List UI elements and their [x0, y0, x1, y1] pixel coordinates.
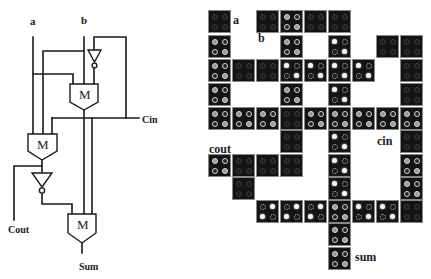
- quantum-dot-icon: [318, 204, 323, 209]
- qca-cell: [305, 60, 326, 81]
- quantum-dot-icon: [260, 24, 266, 30]
- quantum-dot-icon: [260, 158, 266, 164]
- quantum-dot-icon: [246, 73, 252, 79]
- quantum-dot-icon: [284, 144, 290, 150]
- quantum-dot-icon: [246, 181, 252, 187]
- grid-label-sum: sum: [355, 251, 376, 263]
- quantum-dot-icon: [404, 214, 410, 220]
- qca-cell: [281, 108, 302, 129]
- quantum-dot-icon: [308, 214, 313, 219]
- quantum-dot-icon: [222, 63, 228, 69]
- quantum-dot-icon: [318, 111, 324, 117]
- quantum-dot-icon: [342, 158, 348, 164]
- quantum-dot-icon: [294, 158, 300, 164]
- quantum-dot-icon: [366, 111, 372, 117]
- quantum-dot-icon: [212, 73, 218, 79]
- quantum-dot-icon: [390, 39, 396, 45]
- quantum-dot-icon: [356, 73, 362, 79]
- quantum-dot-icon: [270, 158, 276, 164]
- quantum-dot-icon: [236, 121, 242, 127]
- quantum-dot-icon: [318, 73, 323, 78]
- quantum-dot-icon: [332, 251, 338, 257]
- qca-cell: [401, 108, 422, 129]
- quantum-dot-icon: [222, 168, 228, 174]
- quantum-dot-icon: [212, 158, 218, 164]
- qca-cell: [401, 178, 422, 199]
- qca-cell: [257, 201, 278, 222]
- qca-cell: [353, 60, 374, 81]
- quantum-dot-icon: [332, 158, 337, 163]
- qca-cell: [281, 36, 302, 57]
- quantum-dot-icon: [222, 24, 228, 30]
- quantum-dot-icon: [342, 24, 348, 30]
- quantum-dot-icon: [246, 158, 252, 164]
- qca-cell: [257, 155, 278, 176]
- quantum-dot-icon: [236, 191, 242, 197]
- quantum-dot-icon: [260, 63, 266, 69]
- quantum-dot-icon: [222, 158, 228, 164]
- quantum-dot-icon: [222, 121, 228, 127]
- qca-cell: [377, 36, 398, 57]
- quantum-dot-icon: [284, 214, 289, 219]
- quantum-dot-icon: [390, 121, 396, 127]
- quantum-dot-icon: [342, 49, 347, 54]
- qca-cell: [281, 155, 302, 176]
- grid-label-cout: cout: [209, 143, 231, 155]
- quantum-dot-icon: [380, 214, 386, 220]
- qca-cell: [377, 108, 398, 129]
- qca-cell: [329, 84, 350, 105]
- quantum-dot-icon: [270, 24, 276, 30]
- quantum-dot-icon: [342, 181, 348, 187]
- quantum-dot-icon: [294, 97, 300, 103]
- quantum-dot-icon: [332, 121, 338, 127]
- quantum-dot-icon: [212, 49, 218, 55]
- quantum-dot-icon: [284, 63, 289, 68]
- quantum-dot-icon: [222, 97, 228, 103]
- quantum-dot-icon: [332, 97, 338, 103]
- quantum-dot-icon: [342, 168, 347, 173]
- qca-cell: [209, 108, 230, 129]
- quantum-dot-icon: [404, 181, 410, 187]
- quantum-dot-icon: [308, 14, 314, 20]
- qca-cell: [329, 178, 350, 199]
- quantum-dot-icon: [414, 49, 420, 55]
- qca-cell: [233, 108, 254, 129]
- quantum-dot-icon: [342, 121, 348, 127]
- quantum-dot-icon: [260, 121, 266, 127]
- qca-cell: [257, 108, 278, 129]
- qca-cell: [401, 155, 422, 176]
- quantum-dot-icon: [332, 191, 338, 197]
- quantum-dot-icon: [270, 121, 276, 127]
- quantum-dot-icon: [236, 63, 242, 69]
- qca-cell: [281, 201, 302, 222]
- qca-cell: [233, 155, 254, 176]
- qca-cell: [329, 108, 350, 129]
- qca-cell: [281, 11, 302, 32]
- quantum-dot-icon: [294, 14, 300, 20]
- quantum-dot-icon: [222, 49, 228, 55]
- quantum-dot-icon: [284, 14, 290, 20]
- quantum-dot-icon: [404, 158, 410, 164]
- quantum-dot-icon: [294, 204, 299, 209]
- quantum-dot-icon: [212, 111, 218, 117]
- quantum-dot-icon: [342, 87, 348, 93]
- quantum-dot-icon: [212, 39, 218, 45]
- quantum-dot-icon: [294, 49, 300, 55]
- quantum-dot-icon: [270, 14, 276, 20]
- qca-cell: [209, 155, 230, 176]
- quantum-dot-icon: [332, 144, 338, 150]
- quantum-dot-icon: [270, 214, 276, 220]
- quantum-dot-icon: [414, 204, 420, 210]
- quantum-dot-icon: [222, 73, 228, 79]
- quantum-dot-icon: [260, 111, 266, 117]
- qca-cell: [377, 201, 398, 222]
- quantum-dot-icon: [404, 191, 410, 197]
- quantum-dot-icon: [414, 134, 420, 140]
- quantum-dot-icon: [294, 63, 300, 69]
- quantum-dot-icon: [414, 73, 420, 79]
- quantum-dot-icon: [380, 121, 386, 127]
- quantum-dot-icon: [284, 39, 290, 45]
- quantum-dot-icon: [318, 121, 324, 127]
- quantum-dot-icon: [414, 168, 420, 174]
- quantum-dot-icon: [284, 158, 290, 164]
